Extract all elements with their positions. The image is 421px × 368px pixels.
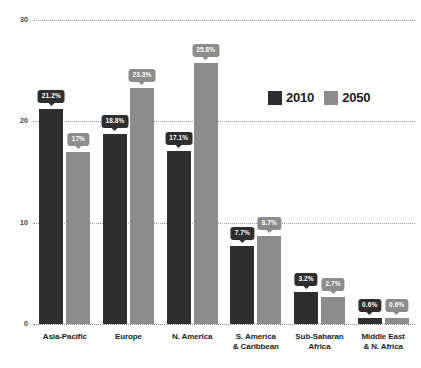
bar-column[interactable]: 3.2% <box>294 20 318 324</box>
bar-value-label: 7.7% <box>231 227 254 240</box>
bar-value-label: 17.1% <box>165 132 192 145</box>
bar-column[interactable]: 17% <box>66 20 90 324</box>
bar-value-label: 21.2% <box>38 90 65 103</box>
bar-group: 0.6%0.6% <box>351 20 415 324</box>
bar-group: 3.2%2.7% <box>288 20 352 324</box>
bar[interactable] <box>358 318 382 324</box>
bar-column[interactable]: 7.7% <box>230 20 254 324</box>
x-axis-category-label: N. America <box>160 332 224 342</box>
legend: 2010 2050 <box>268 90 370 105</box>
bar-column[interactable]: 8.7% <box>257 20 281 324</box>
bar-group: 21.2%17% <box>33 20 97 324</box>
bar-group: 18.8%23.3% <box>97 20 161 324</box>
bar-group-bars: 21.2%17% <box>33 20 97 324</box>
bar-column[interactable]: 18.8% <box>103 20 127 324</box>
bar-value-label: 0.6% <box>385 299 408 312</box>
bar-value-label: 8.7% <box>258 217 281 230</box>
bar[interactable] <box>385 318 409 324</box>
legend-swatch-icon-2010 <box>268 91 282 105</box>
bar-column[interactable]: 17.1% <box>167 20 191 324</box>
legend-swatch-icon-2050 <box>324 91 338 105</box>
legend-label-2050: 2050 <box>342 90 370 105</box>
bar-group-bars: 18.8%23.3% <box>97 20 161 324</box>
bar-column[interactable]: 0.6% <box>358 20 382 324</box>
x-axis-category-label: Europe <box>97 332 161 342</box>
bar[interactable] <box>130 88 154 324</box>
bar-group: 17.1%25.8% <box>160 20 224 324</box>
bar-value-label: 18.8% <box>102 115 129 128</box>
bar[interactable] <box>66 152 90 324</box>
bar-value-label: 23.3% <box>129 69 156 82</box>
bar[interactable] <box>39 109 63 324</box>
bar[interactable] <box>294 292 318 324</box>
x-axis-category-label: Asia-Pacific <box>33 332 97 342</box>
x-axis-category-label: Sub-Saharan Africa <box>288 332 352 352</box>
bar-value-label: 17% <box>68 133 89 146</box>
y-axis-tick-label: 30 <box>2 16 28 23</box>
y-axis-tick-label: 10 <box>2 219 28 226</box>
bar-groups: 21.2%17%18.8%23.3%17.1%25.8%7.7%8.7%3.2%… <box>33 0 415 368</box>
bar-value-label: 25.8% <box>192 44 219 57</box>
bar[interactable] <box>230 246 254 324</box>
bar[interactable] <box>257 236 281 324</box>
bar-column[interactable]: 23.3% <box>130 20 154 324</box>
bar-value-label: 3.2% <box>294 273 317 286</box>
y-axis-tick-label: 20 <box>2 117 28 124</box>
x-axis-category-label: Middle East & N. Africa <box>351 332 415 352</box>
y-axis-tick-label: 0 <box>2 320 28 327</box>
bar-value-label: 0.6% <box>358 299 381 312</box>
bar[interactable] <box>194 63 218 324</box>
bar[interactable] <box>103 134 127 325</box>
bar-column[interactable]: 25.8% <box>194 20 218 324</box>
bar[interactable] <box>167 151 191 324</box>
legend-item-2010[interactable]: 2010 <box>268 90 314 105</box>
bar-value-label: 2.7% <box>321 278 344 291</box>
bar-group-bars: 3.2%2.7% <box>288 20 352 324</box>
bar-chart: 3020100 21.2%17%18.8%23.3%17.1%25.8%7.7%… <box>0 0 421 368</box>
bar-group: 7.7%8.7% <box>224 20 288 324</box>
bar[interactable] <box>321 297 345 324</box>
bar-group-bars: 7.7%8.7% <box>224 20 288 324</box>
bar-column[interactable]: 21.2% <box>39 20 63 324</box>
bar-group-bars: 17.1%25.8% <box>160 20 224 324</box>
bar-group-bars: 0.6%0.6% <box>351 20 415 324</box>
legend-label-2010: 2010 <box>286 90 314 105</box>
bar-column[interactable]: 0.6% <box>385 20 409 324</box>
legend-item-2050[interactable]: 2050 <box>324 90 370 105</box>
bar-column[interactable]: 2.7% <box>321 20 345 324</box>
x-axis-category-label: S. America & Caribbean <box>224 332 288 352</box>
